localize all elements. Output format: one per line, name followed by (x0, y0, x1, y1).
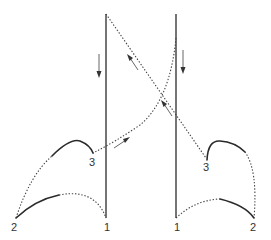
label-left-3: 3 (89, 156, 95, 168)
left-upper-dotted-arc (16, 156, 52, 218)
label-right-1: 1 (174, 221, 180, 233)
right-lower-dotted-arc (176, 199, 220, 218)
dotted-diagonal-left-to-right (106, 14, 206, 158)
arrow-up-left-upper-icon (127, 54, 138, 70)
right-lower-solid-arc (220, 199, 254, 218)
label-left-1: 1 (104, 221, 110, 233)
arrow-up-right-icon (114, 137, 130, 148)
arrow-down-left-icon (97, 54, 102, 78)
arrow-down-right-icon (181, 50, 186, 74)
left-upper-solid-arc (52, 141, 93, 156)
label-right-2: 2 (250, 221, 256, 233)
label-left-2: 2 (11, 221, 17, 233)
arrow-up-left-lower-icon (161, 100, 172, 116)
right-upper-dotted-arc (245, 152, 255, 218)
label-right-3: 3 (203, 161, 209, 173)
hysteresis-loop-diagram: 2 1 3 1 2 3 (0, 0, 271, 240)
right-upper-solid-arc (207, 141, 245, 160)
left-lower-dotted-arc (59, 194, 106, 218)
left-lower-solid-arc (16, 195, 59, 218)
